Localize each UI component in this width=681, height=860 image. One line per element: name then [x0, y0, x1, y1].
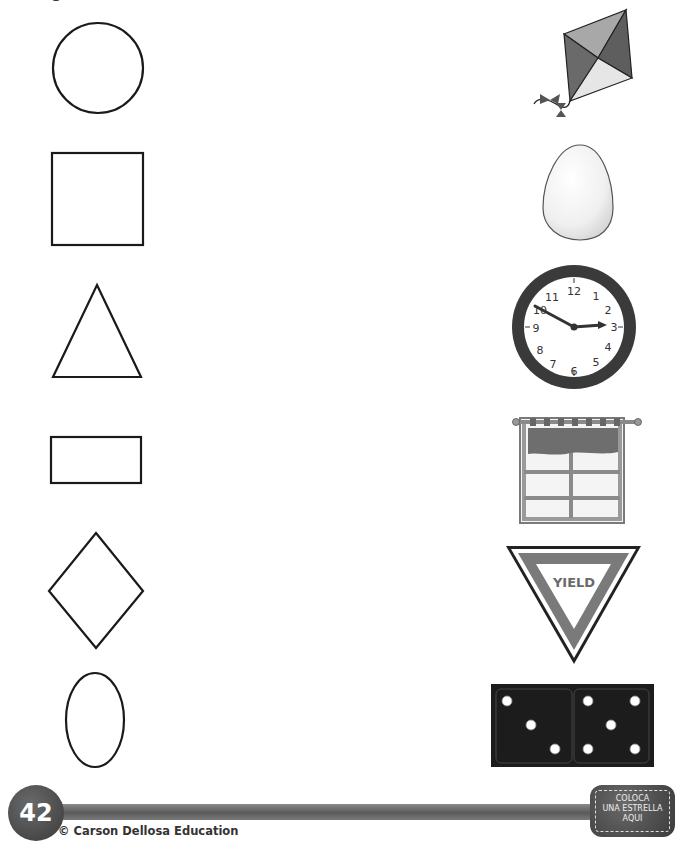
copyright-text: © Carson Dellosa Education	[58, 824, 238, 838]
svg-text:5: 5	[593, 356, 600, 369]
yield-text: YIELD	[552, 575, 595, 590]
star-sticker-box: COLOCA UNA ESTRELLA AQUI	[590, 785, 675, 837]
circle-shape[interactable]	[53, 23, 143, 113]
svg-text:8: 8	[537, 344, 544, 357]
rectangle-shape[interactable]	[51, 437, 141, 483]
left-shapes	[0, 0, 200, 780]
svg-text:9: 9	[533, 322, 540, 335]
footer-bar	[40, 804, 610, 820]
star-box-line3: AQUI	[596, 814, 669, 824]
svg-text:7: 7	[550, 358, 557, 371]
svg-text:3: 3	[611, 321, 618, 334]
clock-hour-hand	[574, 325, 602, 327]
egg-picture[interactable]	[520, 140, 640, 250]
clock-picture[interactable]: 12 1 2 3 4 5 6 7 8 9 10 11	[510, 260, 645, 395]
star-box-line2: UNA ESTRELLA	[596, 804, 669, 814]
svg-text:6: 6	[571, 365, 578, 378]
square-shape[interactable]	[52, 153, 143, 245]
diamond-shape[interactable]	[49, 533, 143, 648]
oval-shape[interactable]	[66, 673, 124, 767]
star-box-line1: COLOCA	[596, 794, 669, 804]
domino-picture[interactable]	[490, 683, 655, 768]
window-picture[interactable]	[510, 412, 650, 527]
svg-text:2: 2	[605, 304, 612, 317]
page-number: 42	[8, 785, 64, 841]
kite-picture[interactable]	[520, 0, 681, 130]
triangle-shape[interactable]	[53, 285, 141, 377]
yield-sign-picture[interactable]: YIELD	[500, 542, 650, 667]
svg-text:11: 11	[545, 291, 559, 304]
svg-text:4: 4	[605, 341, 612, 354]
svg-text:1: 1	[593, 290, 600, 303]
svg-text:12: 12	[567, 285, 581, 298]
